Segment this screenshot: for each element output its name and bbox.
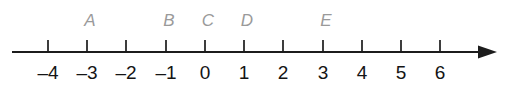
point-label-group: A B C D E xyxy=(83,11,332,30)
point-label-a: A xyxy=(83,11,95,30)
point-label-c: C xyxy=(202,11,215,30)
tick-label-group: –4 –3 –2 –1 0 1 2 3 4 5 6 xyxy=(37,62,445,83)
tick-label-minus-2: –2 xyxy=(115,62,136,83)
tick-label-minus-3: –3 xyxy=(76,62,97,83)
tick-group xyxy=(48,40,440,52)
tick-label-2: 2 xyxy=(278,62,289,83)
tick-label-minus-1: –1 xyxy=(155,62,176,83)
tick-label-5: 5 xyxy=(396,62,407,83)
tick-label-6: 6 xyxy=(435,62,446,83)
point-label-e: E xyxy=(320,11,332,30)
point-label-d: D xyxy=(241,11,253,30)
tick-label-1: 1 xyxy=(239,62,250,83)
number-line-figure: –4 –3 –2 –1 0 1 2 3 4 5 6 A B C D E xyxy=(0,0,514,90)
tick-label-0: 0 xyxy=(200,62,211,83)
tick-label-4: 4 xyxy=(357,62,368,83)
point-label-b: B xyxy=(163,11,174,30)
tick-label-3: 3 xyxy=(318,62,329,83)
tick-label-minus-4: –4 xyxy=(37,62,59,83)
arrow-right-icon xyxy=(478,46,497,59)
number-line-canvas: –4 –3 –2 –1 0 1 2 3 4 5 6 A B C D E xyxy=(0,0,514,90)
